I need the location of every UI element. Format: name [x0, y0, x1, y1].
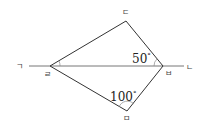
label-giyeok: ㄱ	[16, 62, 23, 71]
angle-arc-bieup	[154, 59, 157, 66]
label-digeut: ㄷ	[122, 8, 129, 17]
angle-label-bieup: 50°	[132, 52, 151, 66]
angle-label-mieum: 100°	[110, 90, 136, 104]
label-nieun: ㄴ	[186, 63, 193, 72]
label-bieup: ㅂ	[165, 69, 172, 78]
angle-arc-rieul	[59, 61, 60, 66]
label-rieul: ㄹ	[44, 70, 51, 79]
label-mieum: ㅁ	[123, 114, 130, 123]
geometry-diagram: ㄱ ㄴ ㄹ ㄷ ㅂ ㅁ 50° 100°	[0, 0, 209, 140]
